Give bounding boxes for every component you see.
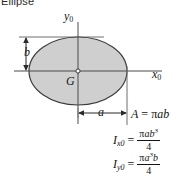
semi-minor-axis-label: b (24, 46, 30, 58)
iy0-symbol: Iy0 (113, 157, 125, 172)
iy0-numerator: πa3b (137, 152, 160, 164)
b-arrow-down-icon (23, 65, 29, 71)
iy0-denominator: 4 (144, 166, 153, 177)
iy0-equals: = (128, 157, 135, 172)
y-axis-label: y0 (64, 10, 73, 24)
iy0-fraction: πa3b 4 (137, 152, 160, 176)
ix0-equals: = (128, 133, 135, 148)
x-axis-label: x0 (152, 68, 161, 82)
ix0-formula: Ix0 = πab3 4 (113, 128, 160, 152)
ix0-symbol: Ix0 (113, 133, 125, 148)
a-arrow-left-icon (78, 110, 84, 116)
ix0-numerator: πab3 (137, 128, 160, 140)
ix0-fraction: πab3 4 (137, 128, 160, 152)
semi-major-axis-label: a (98, 106, 104, 118)
a-arrow-right-icon (121, 110, 127, 116)
b-arrow-up-icon (23, 37, 29, 43)
area-formula: A = πab (131, 107, 169, 122)
iy0-formula: Iy0 = πa3b 4 (113, 152, 160, 176)
centroid-marker-icon (76, 69, 80, 73)
centroid-label: G (66, 75, 75, 87)
